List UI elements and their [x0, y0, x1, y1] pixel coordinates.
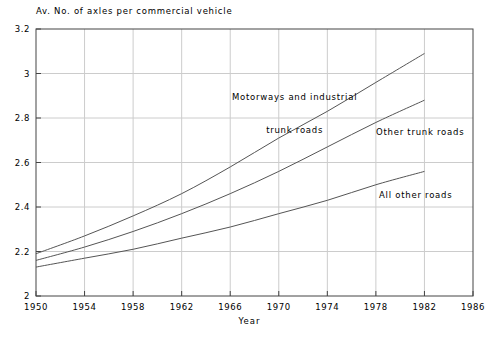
plot-area — [0, 0, 499, 340]
x-tick-label: 1950 — [16, 302, 56, 312]
x-tick-label: 1962 — [162, 302, 202, 312]
x-tick-label: 1966 — [210, 302, 250, 312]
y-tick-label: 2.6 — [2, 158, 30, 168]
series-label-all-other: All other roads — [379, 190, 452, 201]
series-label-other-trunk: Other trunk roads — [376, 127, 464, 138]
x-tick-label: 1958 — [113, 302, 153, 312]
y-tick-label: 2.8 — [2, 113, 30, 123]
y-tick-label: 3 — [2, 69, 30, 79]
series-label-motorways-line1: Motorways and industrial — [232, 92, 357, 103]
y-tick-label: 2.4 — [2, 202, 30, 212]
y-tick-label: 2 — [2, 291, 30, 301]
x-tick-label: 1982 — [404, 302, 444, 312]
x-tick-label: 1978 — [356, 302, 396, 312]
x-tick-label: 1954 — [65, 302, 105, 312]
series-label-motorways: Motorways and industrial trunk roads — [232, 70, 357, 158]
chart-container: Av. No. of axles per commercial vehicle … — [0, 0, 499, 340]
x-tick-label: 1986 — [453, 302, 493, 312]
series-label-motorways-line2: trunk roads — [232, 125, 357, 136]
x-tick-label: 1970 — [259, 302, 299, 312]
y-tick-label: 3.2 — [2, 24, 30, 34]
y-tick-label: 2.2 — [2, 247, 30, 257]
x-tick-label: 1974 — [307, 302, 347, 312]
